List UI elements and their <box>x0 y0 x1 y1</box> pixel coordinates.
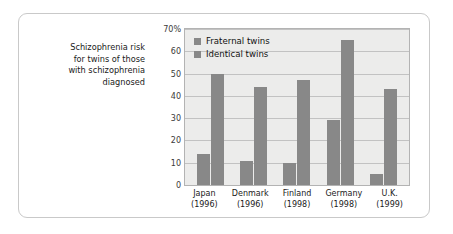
plot-area: 010203040506070% Fraternal twinsIdentica… <box>184 28 410 186</box>
caption-line-4: diagnosed <box>25 77 145 89</box>
y-axis-tick-label: 30 <box>171 114 181 123</box>
bar <box>283 163 296 185</box>
x-axis-category-label: Finland(1998) <box>283 189 312 210</box>
y-axis-tick-label: 10 <box>171 158 181 167</box>
bar <box>197 154 210 185</box>
x-axis-labels: Japan(1996)Denmark(1996)Finland(1998)Ger… <box>184 189 410 210</box>
legend-label: Fraternal twins <box>206 35 270 48</box>
y-axis-tick-label: 20 <box>171 136 181 145</box>
legend-swatch-icon <box>194 38 201 45</box>
category-year: (1999) <box>376 200 403 211</box>
y-axis-tick-label: 50 <box>171 69 181 78</box>
category-year: (1996) <box>232 200 269 211</box>
bar <box>240 161 253 186</box>
category-country: Finland <box>283 189 312 200</box>
category-year: (1998) <box>283 200 312 211</box>
category-year: (1998) <box>325 200 362 211</box>
bar-group <box>327 29 354 185</box>
bar <box>211 74 224 185</box>
category-year: (1996) <box>191 200 218 211</box>
bar <box>297 80 310 185</box>
bar <box>254 87 267 185</box>
x-axis-category-label: Germany(1998) <box>325 189 362 210</box>
caption-line-2: for twins of those <box>25 54 145 66</box>
category-country: Japan <box>191 189 218 200</box>
y-axis-tick-label: 0 <box>176 181 181 190</box>
category-country: Germany <box>325 189 362 200</box>
bar <box>384 89 397 185</box>
legend-label: Identical twins <box>206 48 268 61</box>
caption-line-1: Schizophrenia risk <box>25 42 145 54</box>
legend-item: Identical twins <box>194 48 270 61</box>
figure-card: Schizophrenia risk for twins of those wi… <box>18 13 430 218</box>
bar <box>341 40 354 185</box>
category-country: U.K. <box>376 189 403 200</box>
x-axis-category-label: U.K.(1999) <box>376 189 403 210</box>
bar <box>327 120 340 185</box>
y-axis-tick-label: 40 <box>171 91 181 100</box>
bar <box>370 174 383 185</box>
bar-group <box>370 29 397 185</box>
x-axis-category-label: Denmark(1996) <box>232 189 269 210</box>
bar-group <box>283 29 310 185</box>
legend-item: Fraternal twins <box>194 35 270 48</box>
chart-caption: Schizophrenia risk for twins of those wi… <box>25 42 145 88</box>
category-country: Denmark <box>232 189 269 200</box>
caption-line-3: with schizophrenia <box>25 65 145 77</box>
y-axis-tick-label: 70% <box>163 25 181 34</box>
chart-legend: Fraternal twinsIdentical twins <box>194 35 270 61</box>
plot-wrapper: 010203040506070% Fraternal twinsIdentica… <box>162 28 410 186</box>
x-axis-category-label: Japan(1996) <box>191 189 218 210</box>
gridline <box>185 185 409 186</box>
y-axis-tick-label: 60 <box>171 47 181 56</box>
legend-swatch-icon <box>194 51 201 58</box>
